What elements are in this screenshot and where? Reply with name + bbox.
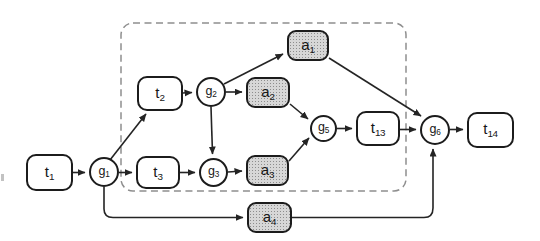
node-label-t1: t1 <box>45 164 54 182</box>
node-g2: g2 <box>196 77 226 107</box>
node-a1: a1 <box>287 30 329 61</box>
node-label-g1: g1 <box>98 165 109 180</box>
node-label-t13: t13 <box>371 120 386 138</box>
node-label-t3: t3 <box>153 164 162 182</box>
node-label-t14: t14 <box>483 121 498 139</box>
node-label-g3: g3 <box>208 165 219 180</box>
node-label-a1: a1 <box>301 37 315 55</box>
node-a4: a4 <box>247 202 292 233</box>
node-label-g2: g2 <box>205 85 216 100</box>
node-g1: g1 <box>89 157 119 187</box>
node-a2: a2 <box>246 77 290 108</box>
node-g3: g3 <box>199 158 228 187</box>
node-t13: t13 <box>356 111 400 146</box>
node-g6: g6 <box>420 115 450 145</box>
node-t14: t14 <box>467 112 514 148</box>
node-label-g5: g5 <box>318 121 329 136</box>
node-label-a4: a4 <box>263 209 277 227</box>
node-layer: t1g1t2g2a2a1t3g3a3g5t13g6t14a4 <box>0 0 540 241</box>
node-label-a3: a3 <box>261 162 275 180</box>
node-label-g6: g6 <box>429 123 440 138</box>
node-label-t2: t2 <box>155 85 164 103</box>
node-t1: t1 <box>26 154 73 191</box>
node-t3: t3 <box>136 156 180 189</box>
node-label-a2: a2 <box>261 84 275 102</box>
workflow-diagram: t1g1t2g2a2a1t3g3a3g5t13g6t14a4 <box>0 0 540 241</box>
node-g5: g5 <box>310 115 337 142</box>
node-t2: t2 <box>137 76 183 111</box>
node-a3: a3 <box>246 155 289 186</box>
